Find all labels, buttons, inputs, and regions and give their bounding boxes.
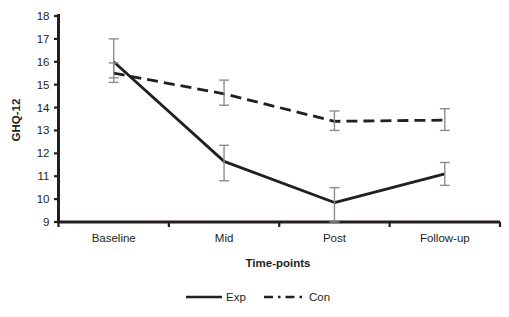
x-axis-category-labels: BaselineMidPostFollow-up	[92, 232, 470, 244]
legend-label-con: Con	[309, 291, 330, 303]
y-tick-label: 18	[37, 10, 50, 22]
y-tick-label: 12	[37, 147, 50, 159]
x-category-label: Mid	[215, 232, 234, 244]
y-tick-label: 14	[37, 102, 50, 114]
y-tick-label: 11	[38, 170, 50, 182]
y-tick-label: 10	[37, 193, 50, 205]
chart-container: 9101112131415161718 BaselineMidPostFollo…	[0, 0, 509, 317]
legend-item-con[interactable]: Con	[264, 291, 330, 303]
y-tick-label: 9	[43, 216, 49, 228]
x-category-label: Baseline	[92, 232, 136, 244]
y-tick-label: 15	[37, 79, 50, 91]
legend-item-exp[interactable]: Exp	[186, 291, 246, 303]
y-axis-tick-labels: 9101112131415161718	[37, 10, 50, 228]
legend-label-exp: Exp	[226, 291, 246, 303]
x-category-label: Post	[323, 232, 347, 244]
series-layer	[109, 39, 450, 222]
series-line-exp	[114, 62, 445, 203]
ghq12-line-chart: 9101112131415161718 BaselineMidPostFollo…	[0, 0, 509, 317]
chart-legend: Exp Con	[186, 291, 330, 303]
series-exp	[109, 39, 450, 222]
y-axis-title: GHQ-12	[10, 99, 22, 142]
series-line-con	[114, 73, 445, 121]
y-tick-label: 17	[37, 33, 50, 45]
error-bar	[329, 188, 339, 222]
y-tick-label: 13	[37, 124, 50, 136]
series-con	[109, 63, 450, 131]
y-tick-label: 16	[37, 56, 50, 68]
x-category-label: Follow-up	[420, 232, 470, 244]
x-axis-title: Time-points	[246, 257, 311, 269]
